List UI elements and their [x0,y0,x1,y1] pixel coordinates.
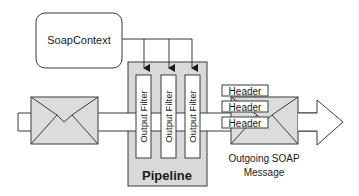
soap-pipeline-diagram: SoapContext Pipeline Output Filter Outpu… [0,0,359,196]
outgoing-arrow-icon [298,100,343,145]
output-filter-1-label: Output Filter [138,90,149,142]
output-filter-3-label: Output Filter [187,90,198,142]
outgoing-message-label-line1: Outgoing SOAP [228,153,299,164]
header-1-label: Header [229,86,262,97]
outgoing-message-label-line2: Message [244,167,285,178]
pipeline-label: Pipeline [142,168,192,183]
soap-context-label: SoapContext [47,34,111,46]
header-3-label: Header [229,118,262,129]
incoming-envelope-icon [31,97,98,144]
header-2-label: Header [229,102,262,113]
output-filter-2-label: Output Filter [163,90,174,142]
